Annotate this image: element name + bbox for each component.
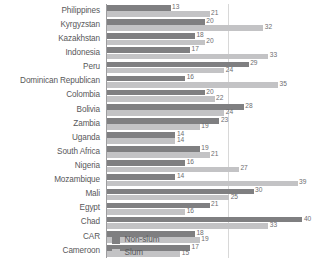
bar-value-label: 33 <box>268 222 277 229</box>
category-label-indonesia: Indonesia <box>65 49 100 57</box>
table-row: 16 <box>107 76 322 82</box>
bar-value-label: 33 <box>268 52 277 59</box>
bar-slum-colombia <box>107 96 215 102</box>
bar-value-label: 21 <box>210 10 219 17</box>
bar-value-label: 19 <box>200 145 209 152</box>
bar-value-label: 27 <box>239 165 248 172</box>
bar-slum-nigeria <box>107 167 239 173</box>
bar-value-label: 21 <box>210 151 219 158</box>
table-row: 29 <box>107 62 322 68</box>
bar-value-label: 30 <box>254 187 263 194</box>
bar-slum-dominican-republican <box>107 82 278 88</box>
bar-non-slum-uganda <box>107 132 175 138</box>
table-row: 33 <box>107 54 322 60</box>
bar-value-label: 18 <box>195 32 204 39</box>
table-row: 21 <box>107 11 322 17</box>
bar-non-slum-colombia <box>107 90 205 96</box>
table-row: 16 <box>107 209 322 215</box>
bar-value-label: 21 <box>210 201 219 208</box>
table-row: 21 <box>107 203 322 209</box>
category-label-mozambique: Mozambique <box>54 176 100 184</box>
category-label-mali: Mali <box>85 190 100 198</box>
bar-value-label: 29 <box>249 60 258 67</box>
bar-slum-peru <box>107 68 224 74</box>
bar-slum-egypt <box>107 209 185 215</box>
bar-slum-mozambique <box>107 181 298 187</box>
table-row: 30 <box>107 189 322 195</box>
category-label-uganda: Uganda <box>72 134 100 142</box>
category-label-chad: Chad <box>81 218 100 226</box>
table-row: 24 <box>107 68 322 74</box>
table-row: 14 <box>107 174 322 180</box>
category-label-egypt: Egypt <box>80 204 100 212</box>
table-row: 23 <box>107 118 322 124</box>
table-row: 18 <box>107 33 322 39</box>
bar-non-slum-kazakhstan <box>107 33 195 39</box>
bar-value-label: 15 <box>180 250 189 257</box>
bar-slum-philippines <box>107 11 210 17</box>
legend-swatch-icon <box>112 237 120 245</box>
table-row: 40 <box>107 217 322 223</box>
bar-non-slum-philippines <box>107 5 171 11</box>
bar-value-label: 23 <box>219 117 228 124</box>
bar-non-slum-nigeria <box>107 160 185 166</box>
chart-legend: Non-slumSlum <box>112 236 160 261</box>
bar-slum-chad <box>107 223 268 229</box>
legend-label: Slum <box>125 249 144 257</box>
bar-chart: PhilippinesKyrgyzstanKazakhstanIndonesia… <box>0 0 325 274</box>
bar-slum-kyrgyzstan <box>107 25 263 31</box>
legend-swatch-icon <box>112 249 120 257</box>
table-row: 16 <box>107 160 322 166</box>
table-row: 14 <box>107 132 322 138</box>
category-axis-labels: PhilippinesKyrgyzstanKazakhstanIndonesia… <box>0 4 104 258</box>
table-row: 22 <box>107 96 322 102</box>
bar-value-label: 16 <box>185 208 194 215</box>
table-row: 33 <box>107 223 322 229</box>
legend-item-non-slum[interactable]: Non-slum <box>112 236 160 245</box>
bar-slum-uganda <box>107 138 175 144</box>
bar-value-label: 19 <box>200 123 209 130</box>
table-row: 27 <box>107 167 322 173</box>
bar-value-label: 14 <box>175 137 184 144</box>
bar-value-label: 40 <box>302 216 311 223</box>
table-row: 17 <box>107 47 322 53</box>
table-row: 14 <box>107 138 322 144</box>
bar-value-label: 22 <box>215 95 224 102</box>
category-label-car: CAR <box>83 233 100 241</box>
table-row: 35 <box>107 82 322 88</box>
bar-value-label: 17 <box>190 244 199 251</box>
category-label-bolivia: Bolivia <box>77 106 100 114</box>
bar-slum-south-africa <box>107 152 210 158</box>
table-row: 32 <box>107 25 322 31</box>
bar-slum-zambia <box>107 124 200 130</box>
category-label-peru: Peru <box>83 63 100 71</box>
bar-value-label: 39 <box>298 179 307 186</box>
bar-value-label: 24 <box>224 109 233 116</box>
bar-value-label: 25 <box>229 194 238 201</box>
category-label-kyrgyzstan: Kyrgyzstan <box>61 21 101 29</box>
table-row: 24 <box>107 110 322 116</box>
legend-label: Non-slum <box>125 236 160 244</box>
bar-non-slum-south-africa <box>107 146 200 152</box>
bar-slum-bolivia <box>107 110 224 116</box>
bar-slum-indonesia <box>107 54 268 60</box>
bar-non-slum-dominican-republican <box>107 76 185 82</box>
bar-value-label: 32 <box>263 24 272 31</box>
bar-value-label: 20 <box>205 89 214 96</box>
category-label-kazakhstan: Kazakhstan <box>58 35 100 43</box>
bar-value-label: 16 <box>185 74 194 81</box>
bar-non-slum-egypt <box>107 203 210 209</box>
bar-value-label: 19 <box>200 236 209 243</box>
plot-area: 1321203218201733292416352022282423191414… <box>106 4 321 258</box>
category-label-dominican-republican: Dominican Republican <box>20 77 100 85</box>
table-row: 21 <box>107 152 322 158</box>
bar-non-slum-mozambique <box>107 174 175 180</box>
legend-item-slum[interactable]: Slum <box>112 249 160 258</box>
table-row: 20 <box>107 19 322 25</box>
bar-value-label: 35 <box>278 81 287 88</box>
bar-value-label: 24 <box>224 67 233 74</box>
bar-value-label: 20 <box>205 38 214 45</box>
category-label-cameroon: Cameroon <box>63 247 100 255</box>
bar-value-label: 13 <box>171 4 180 11</box>
table-row: 19 <box>107 124 322 130</box>
